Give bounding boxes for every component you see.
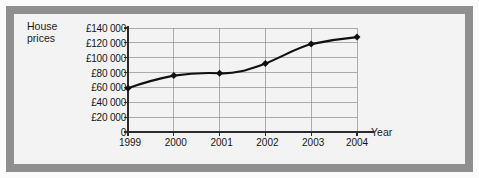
data-point-2001 — [216, 70, 223, 77]
data-point-2000 — [170, 72, 177, 79]
data-point-2004 — [354, 34, 361, 41]
data-point-2002 — [262, 60, 269, 67]
data-line-house-prices — [128, 37, 357, 88]
data-point-1999 — [125, 85, 132, 92]
plot-svg — [0, 0, 479, 178]
chart-area: Houseprices £140 000 £120 000 £100 000 £… — [0, 0, 479, 178]
chart-figure: Houseprices £140 000 £120 000 £100 000 £… — [0, 0, 479, 178]
data-point-2003 — [308, 41, 315, 48]
vertical-gridlines — [174, 28, 357, 132]
